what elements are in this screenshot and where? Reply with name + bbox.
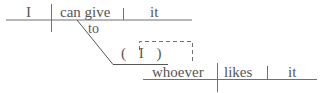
sentence-diagram: I can give it to ( I ) whoever likes it [0, 0, 326, 93]
main-subject: I [26, 5, 31, 20]
understood-subject: ( I ) [121, 46, 162, 61]
preposition: to [88, 21, 99, 36]
main-direct-object: it [150, 5, 158, 20]
clause-direct-object: it [288, 65, 296, 80]
clause-subject: whoever [152, 65, 204, 80]
clause-verb: likes [224, 65, 252, 80]
main-verb: can give [60, 5, 110, 20]
